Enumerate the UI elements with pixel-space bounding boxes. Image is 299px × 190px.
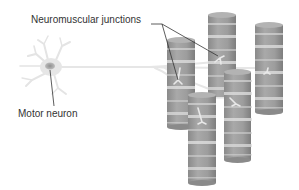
neuromuscular-diagram: Neuromuscular junctions Motor neuron [0, 0, 299, 190]
label-neuromuscular-junctions: Neuromuscular junctions [31, 14, 141, 25]
muscle-fiber-3 [255, 22, 283, 115]
muscle-fiber-4 [224, 69, 252, 163]
muscle-fiber-5 [188, 92, 216, 186]
diagram-graphic [0, 0, 299, 190]
label-motor-neuron: Motor neuron [18, 108, 77, 119]
neuron-nucleus [45, 62, 55, 69]
